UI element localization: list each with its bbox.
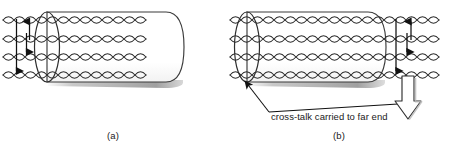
panel-b: (b) xyxy=(226,0,452,156)
crosstalk-figure: (a) xyxy=(0,0,452,156)
down-block-arrow-icon xyxy=(395,76,422,120)
near-end-crosstalk-arrows xyxy=(17,19,30,71)
far-end-crosstalk-arrows xyxy=(396,19,411,71)
panel-b-caption: (b) xyxy=(226,130,452,141)
panel-a: (a) xyxy=(0,0,226,156)
crosstalk-annotation-label: cross-talk carried to far end xyxy=(271,111,388,122)
panel-a-caption: (a) xyxy=(0,130,226,141)
